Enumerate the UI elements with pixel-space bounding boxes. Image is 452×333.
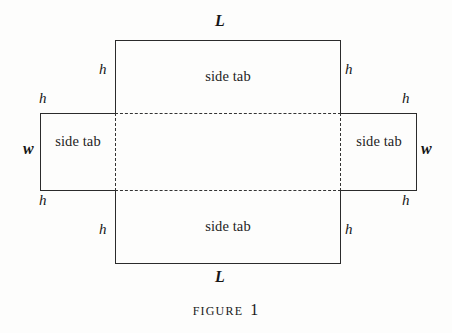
top-flap-label: side tab bbox=[115, 69, 341, 85]
dimension-label-width-right: w bbox=[421, 140, 432, 158]
dimension-label-width-left: w bbox=[23, 140, 34, 158]
fold-line-left bbox=[115, 113, 116, 191]
right-flap-label: side tab bbox=[348, 134, 410, 150]
dimension-label-height-lower-left: h bbox=[39, 192, 47, 209]
bottom-flap-label: side tab bbox=[115, 219, 341, 235]
dimension-label-height-middle-left: h bbox=[39, 90, 47, 107]
figure-caption-number: 1 bbox=[250, 301, 259, 318]
fold-line-bottom bbox=[115, 190, 341, 191]
fold-line-top bbox=[115, 113, 341, 114]
dimension-label-height-top-right: h bbox=[345, 61, 353, 78]
dimension-label-height-bottom-left: h bbox=[99, 221, 107, 238]
box-net-figure: side tab side tab side tab side tab L L … bbox=[0, 0, 452, 333]
dimension-label-height-middle-right: h bbox=[402, 90, 410, 107]
dimension-label-height-lower-right: h bbox=[402, 192, 410, 209]
left-flap-panel bbox=[40, 113, 116, 191]
dimension-label-height-top-left: h bbox=[99, 61, 107, 78]
figure-caption: Figure1 bbox=[0, 300, 452, 320]
fold-line-right bbox=[340, 113, 341, 191]
dimension-label-length-bottom: L bbox=[215, 268, 225, 286]
left-flap-label: side tab bbox=[47, 134, 109, 150]
figure-caption-word: Figure bbox=[193, 300, 244, 319]
right-flap-panel bbox=[340, 113, 417, 191]
dimension-label-height-bottom-right: h bbox=[345, 221, 353, 238]
dimension-label-length-top: L bbox=[215, 12, 225, 30]
